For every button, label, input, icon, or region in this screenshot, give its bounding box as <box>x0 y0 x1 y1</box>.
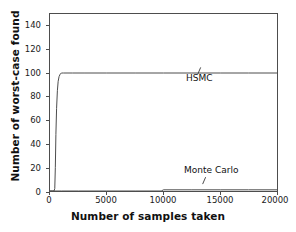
plot-area <box>49 13 278 192</box>
y-tick-label: 60 <box>30 116 41 125</box>
x-tick-label: 0 <box>46 196 51 205</box>
x-tick-label: 10000 <box>149 196 176 205</box>
x-axis-title: Number of samples taken <box>0 210 296 222</box>
y-tick-label: 40 <box>30 140 41 149</box>
annotation-monte-carlo: Monte Carlo <box>184 166 238 175</box>
leader-line-monte-carlo <box>203 177 206 184</box>
y-axis-title: Number of worst-case found <box>9 6 21 186</box>
series-line-hsmc <box>50 73 277 191</box>
x-tick-label: 20000 <box>261 196 288 205</box>
x-tick-label: 5000 <box>95 196 117 205</box>
y-tick-label: 140 <box>25 21 41 30</box>
y-tick-label: 100 <box>25 69 41 78</box>
chart-figure: 0 20 40 60 80 100 120 140 0 5000 10000 1… <box>0 0 296 232</box>
y-tick-label: 120 <box>25 45 41 54</box>
annotation-hsmc: HSMC <box>186 74 213 83</box>
series-line-monte-carlo <box>50 190 277 191</box>
x-tick-label: 15000 <box>206 196 233 205</box>
y-axis-title-wrapper: Number of worst-case found <box>9 6 23 186</box>
y-tick-label: 20 <box>30 164 41 173</box>
plot-svg <box>50 14 277 191</box>
y-tick-label: 0 <box>36 188 41 197</box>
y-tick-label: 80 <box>30 92 41 101</box>
